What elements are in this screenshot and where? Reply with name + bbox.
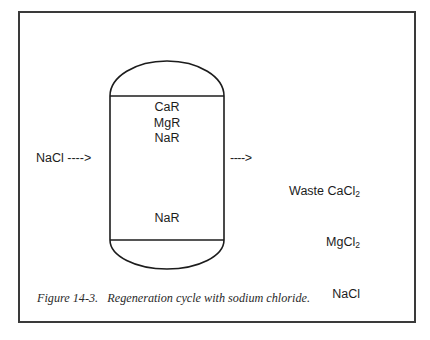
outlet-line-mgcl2: MgCl2	[268, 234, 360, 253]
inlet-stream-label: NaCl ---->	[36, 152, 91, 165]
figure-caption: Figure 14-3. Regeneration cycle with sod…	[37, 291, 310, 306]
outlet-line-nacl-text: NaCl	[332, 287, 360, 301]
outlet-arrow-icon: ---->	[230, 152, 251, 165]
outlet-line-cacl2-text: Waste CaCl	[289, 184, 355, 198]
figure-page: CaR MgR NaR NaR NaCl ----> ----> Waste C…	[0, 0, 430, 340]
upper-resin-bed-labels: CaR MgR NaR	[110, 100, 224, 147]
lower-resin-bed-label: NaR	[110, 212, 224, 225]
outlet-line-mgcl2-text: MgCl	[326, 235, 355, 249]
outlet-line-cacl2: Waste CaCl2	[268, 183, 360, 202]
outlet-line-cacl2-sub: 2	[355, 189, 360, 199]
outlet-line-mgcl2-sub: 2	[355, 241, 360, 251]
outlet-stream-labels: Waste CaCl2 MgCl2 NaCl	[268, 151, 360, 334]
